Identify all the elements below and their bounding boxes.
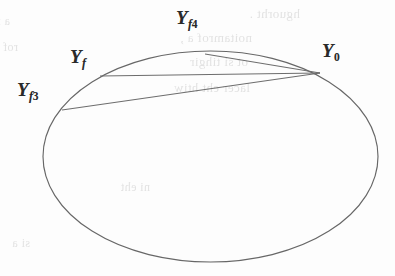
chord-y0-yf (100, 73, 320, 76)
chord-y0-yf3 (62, 73, 320, 110)
label-sub-digit-yf3: 3 (33, 90, 39, 102)
label-base-y0: Y (322, 40, 334, 61)
label-sub-yf4: f4 (188, 17, 197, 31)
label-sub-digit-y0: 0 (334, 51, 340, 63)
figure-root: hguorht . noitamrof a , ot si tihgir lac… (0, 0, 395, 276)
point-label-yf3: Yf3 (17, 80, 38, 103)
label-sub-letter-yf: f (82, 56, 86, 70)
label-sub-yf3: f3 (29, 89, 38, 103)
label-sub-yf: f (82, 56, 86, 70)
label-sub-y0: 0 (334, 50, 340, 64)
label-sub-digit-yf4: 4 (192, 18, 198, 30)
label-base-yf: Y (70, 46, 82, 67)
chord-y0-yf4 (205, 54, 320, 73)
ellipse-boundary (43, 51, 378, 262)
label-base-yf3: Y (17, 79, 29, 100)
point-label-y0: Y0 (322, 41, 339, 64)
point-label-yf4: Yf4 (176, 8, 197, 31)
point-label-yf: Yf (70, 47, 86, 70)
label-base-yf4: Y (176, 7, 188, 28)
